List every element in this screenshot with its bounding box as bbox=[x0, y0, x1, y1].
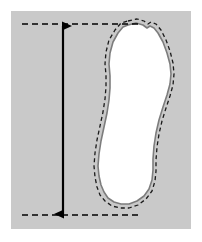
foot-measurement-diagram bbox=[0, 0, 202, 242]
figure-root: Foot length measurement diagram Outline … bbox=[0, 0, 202, 242]
